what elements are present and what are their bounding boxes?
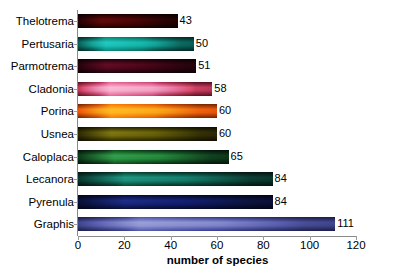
bar-value-label: 50: [196, 36, 208, 51]
category-label-porina: Porina: [0, 104, 74, 118]
bar-value-label: 60: [219, 126, 231, 141]
category-label-usnea: Usnea: [0, 127, 74, 141]
bar[interactable]: [78, 217, 335, 231]
bar-value-label: 43: [180, 13, 192, 28]
x-axis-tick-label: 40: [164, 238, 177, 253]
species-bar-chart: ThelotremaPertusariaParmotremaCladoniaPo…: [0, 0, 405, 273]
x-axis-tick-label: 120: [346, 238, 365, 253]
x-axis-tick-label: 100: [300, 238, 319, 253]
bar[interactable]: [78, 14, 178, 28]
bar[interactable]: [78, 82, 212, 96]
bar-value-label: 58: [214, 81, 226, 96]
x-axis-tick: [124, 236, 125, 240]
bar[interactable]: [78, 37, 194, 51]
bar-row: 60: [78, 100, 356, 122]
x-axis-tick-label: 80: [257, 238, 270, 253]
x-axis-tick: [263, 236, 264, 240]
x-axis-tick-label: 60: [211, 238, 224, 253]
bar-row: 60: [78, 123, 356, 145]
bar-value-label: 84: [275, 171, 287, 186]
bar-value-label: 65: [231, 149, 243, 164]
category-label-parmotrema: Parmotrema: [0, 59, 74, 73]
bar-value-label: 51: [198, 58, 210, 73]
bar-row: 84: [78, 168, 356, 190]
x-axis-tick: [171, 236, 172, 240]
category-axis-labels: ThelotremaPertusariaParmotremaCladoniaPo…: [0, 10, 74, 236]
category-label-pyrenula: Pyrenula: [0, 195, 74, 209]
bar-row: 50: [78, 33, 356, 55]
category-label-pertusaria: Pertusaria: [0, 37, 74, 51]
x-axis-tick: [356, 236, 357, 240]
category-label-graphis: Graphis: [0, 217, 74, 231]
bar[interactable]: [78, 104, 217, 118]
category-label-lecanora: Lecanora: [0, 172, 74, 186]
bar-value-label: 60: [219, 103, 231, 118]
x-axis-tick: [217, 236, 218, 240]
bar-row: 65: [78, 146, 356, 168]
x-axis-tick: [310, 236, 311, 240]
x-axis-title: number of species: [78, 254, 357, 266]
bar[interactable]: [78, 150, 229, 164]
x-axis-tick: [78, 236, 79, 240]
bar-value-label: 84: [275, 194, 287, 209]
x-axis-tick-label: 20: [118, 238, 131, 253]
x-axis-tick-label: 0: [75, 238, 81, 253]
bar-row: 58: [78, 78, 356, 100]
bar-value-label: 111: [337, 216, 354, 231]
bar[interactable]: [78, 59, 196, 73]
plot-area: 435051586060658484111: [78, 10, 356, 236]
category-label-cladonia: Cladonia: [0, 82, 74, 96]
bar-row: 51: [78, 55, 356, 77]
bar[interactable]: [78, 195, 273, 209]
bar-row: 111: [78, 213, 356, 235]
bar-row: 43: [78, 10, 356, 32]
category-label-caloplaca: Caloplaca: [0, 150, 74, 164]
bar[interactable]: [78, 127, 217, 141]
bar[interactable]: [78, 172, 273, 186]
bar-row: 84: [78, 191, 356, 213]
category-label-thelotrema: Thelotrema: [0, 14, 74, 28]
